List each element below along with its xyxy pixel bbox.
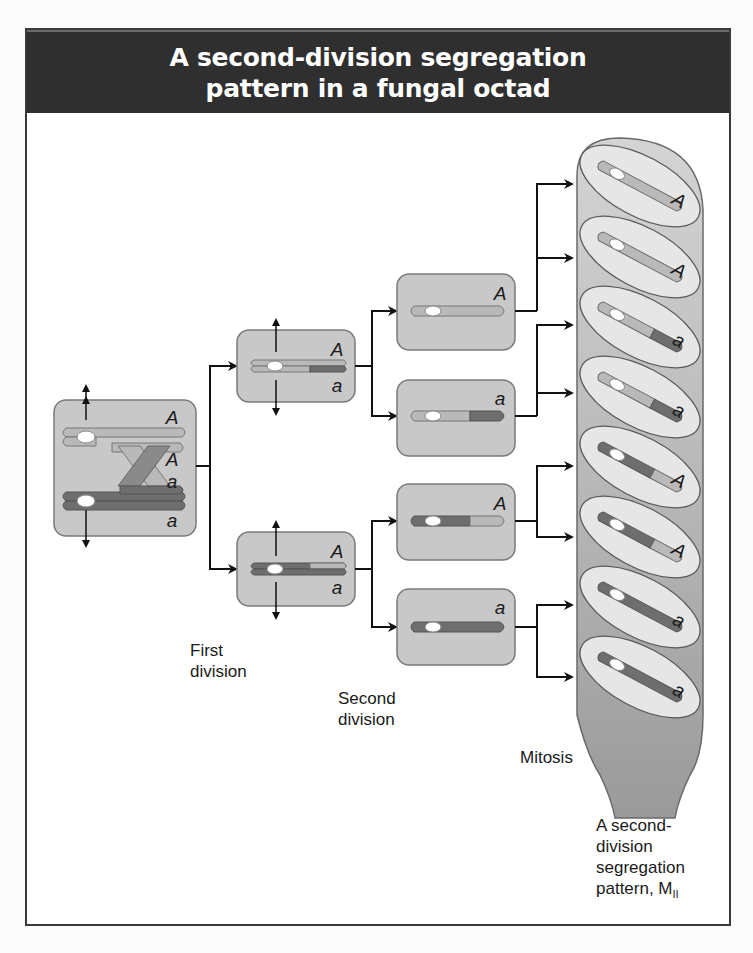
- allele-label: a: [167, 471, 178, 492]
- result-label: A second- division segregation pattern, …: [596, 815, 685, 905]
- allele-label: a: [167, 510, 178, 531]
- meiosis-cell: A A a a: [54, 388, 196, 544]
- mitosis-label: Mitosis: [520, 747, 573, 768]
- connector-first-division: [196, 366, 236, 569]
- second-division-cell-4: a: [397, 589, 515, 665]
- first-division-cell-top: A a: [237, 322, 355, 412]
- allele-label: A: [493, 283, 507, 304]
- first-division-label-line: First: [190, 640, 247, 661]
- result-label-line: segregation: [596, 857, 685, 878]
- result-label-line: A second-: [596, 815, 685, 836]
- first-division-cell-bottom: A a: [237, 524, 355, 616]
- allele-label: a: [332, 375, 343, 396]
- allele-label: a: [495, 388, 506, 409]
- allele-label: A: [330, 339, 344, 360]
- segregation-diagram: A A a a A a A a: [0, 0, 753, 953]
- connector-second-division: [355, 311, 396, 627]
- connector-mitosis: [515, 184, 572, 677]
- second-division-label: Second division: [338, 688, 396, 730]
- allele-label: A: [165, 449, 179, 470]
- result-label-line: division: [596, 836, 685, 857]
- second-division-label-line: division: [338, 709, 396, 730]
- allele-label: A: [493, 493, 507, 514]
- second-division-cell-3: A: [397, 484, 515, 560]
- first-division-label: First division: [190, 640, 247, 682]
- allele-label: a: [332, 577, 343, 598]
- second-division-cell-1: A: [397, 274, 515, 350]
- result-label-subscript: II: [673, 888, 679, 900]
- allele-label: A: [165, 407, 179, 428]
- result-label-line: pattern, MII: [596, 878, 685, 905]
- allele-label: A: [330, 541, 344, 562]
- second-division-label-line: Second: [338, 688, 396, 709]
- result-label-text: pattern, M: [596, 879, 673, 898]
- second-division-cell-2: a: [397, 380, 515, 456]
- first-division-label-line: division: [190, 661, 247, 682]
- allele-label: a: [495, 597, 506, 618]
